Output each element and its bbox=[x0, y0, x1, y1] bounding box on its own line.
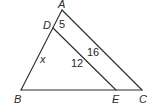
segment-ab bbox=[21, 10, 62, 90]
vertex-labels: A D B E C bbox=[14, 0, 147, 105]
measure-de: 12 bbox=[71, 57, 83, 69]
triangle-diagram: A D B E C 5 16 x 12 bbox=[0, 0, 159, 105]
vertex-label-e: E bbox=[112, 93, 120, 105]
triangle-segments bbox=[21, 10, 142, 90]
measure-db: x bbox=[39, 53, 46, 65]
vertex-label-c: C bbox=[139, 93, 147, 105]
vertex-label-d: D bbox=[43, 19, 51, 31]
measure-ac: 16 bbox=[87, 46, 99, 58]
vertex-label-b: B bbox=[14, 93, 21, 105]
segment-de bbox=[53, 28, 116, 90]
measure-ad: 5 bbox=[59, 18, 65, 30]
segment-ac bbox=[62, 10, 142, 90]
vertex-label-a: A bbox=[57, 0, 65, 10]
